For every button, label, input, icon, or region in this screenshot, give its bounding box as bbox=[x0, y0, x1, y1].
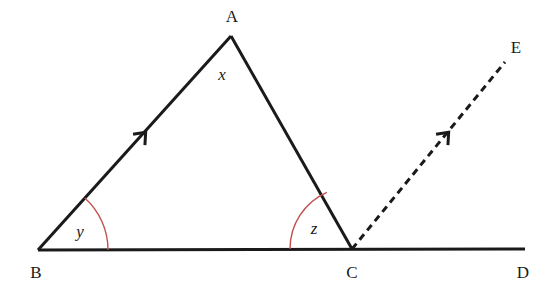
base-line-BD bbox=[38, 249, 525, 250]
ray-CE bbox=[352, 62, 505, 249]
angle-arcs-layer bbox=[85, 0, 327, 250]
angle-label-z: z bbox=[311, 220, 318, 237]
vertex-label-B: B bbox=[30, 264, 41, 281]
angle-label-y: y bbox=[76, 223, 84, 240]
vertex-label-D: D bbox=[517, 264, 529, 281]
segments-layer bbox=[38, 36, 525, 250]
side-AB bbox=[38, 36, 231, 250]
vertex-label-C: C bbox=[346, 264, 357, 281]
angle-z-at-C-arc bbox=[290, 192, 327, 249]
vertex-label-E: E bbox=[511, 39, 521, 56]
vertex-label-A: A bbox=[226, 8, 238, 25]
side-AC bbox=[231, 36, 352, 249]
angle-y-at-B-arc bbox=[85, 198, 108, 250]
geometry-diagram: A B C D E x y z bbox=[0, 0, 546, 297]
angle-label-x: x bbox=[218, 66, 226, 83]
parallel-markers-layer bbox=[133, 127, 455, 145]
geometry-canvas bbox=[0, 0, 546, 297]
